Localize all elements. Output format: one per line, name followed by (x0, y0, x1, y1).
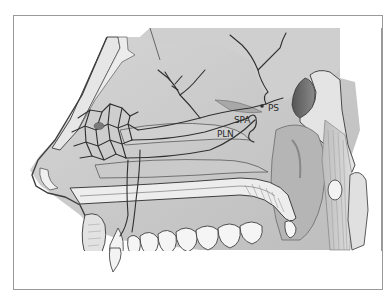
vessel-highlight (94, 123, 104, 130)
nasal-cavity-illustration (0, 0, 392, 303)
label-spa: SPA (234, 116, 250, 125)
foramen-marker (260, 104, 264, 108)
label-ps: PS (268, 104, 279, 113)
label-pln: PLN (217, 130, 234, 139)
atlas-vertebra (348, 172, 368, 250)
